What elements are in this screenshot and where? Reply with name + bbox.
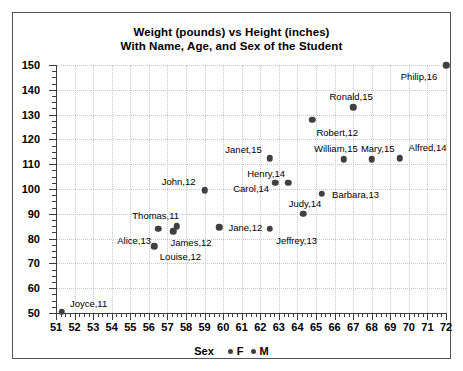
data-point[interactable] xyxy=(368,156,375,163)
x-tick-major xyxy=(427,313,428,320)
data-point[interactable] xyxy=(266,155,273,162)
data-point[interactable] xyxy=(266,225,273,232)
x-tick-major xyxy=(205,313,206,320)
data-point-label: Robert,12 xyxy=(316,126,358,137)
x-tick-minor xyxy=(214,313,215,317)
y-tick-major xyxy=(49,65,56,66)
x-tick-minor xyxy=(177,313,178,317)
x-tick-major xyxy=(446,313,447,320)
x-tick-major xyxy=(167,313,168,320)
x-tick-minor xyxy=(191,313,192,317)
x-tick-minor xyxy=(200,313,201,317)
legend-entry-label: F xyxy=(237,345,244,357)
data-point-label: Jane,12 xyxy=(229,222,263,233)
x-tick-minor xyxy=(270,313,271,317)
x-tick-major xyxy=(297,313,298,320)
data-point-label: Thomas,11 xyxy=(132,210,179,221)
x-tick-minor xyxy=(293,313,294,317)
data-point[interactable] xyxy=(300,211,307,218)
x-tick-label: 62 xyxy=(254,321,266,333)
x-tick-label: 56 xyxy=(143,321,155,333)
data-point[interactable] xyxy=(216,224,223,231)
y-tick-major xyxy=(49,214,56,215)
x-tick-major xyxy=(372,313,373,320)
y-tick-label: 100 xyxy=(22,183,40,195)
x-tick-minor xyxy=(98,313,99,317)
data-point[interactable] xyxy=(443,62,450,69)
data-point[interactable] xyxy=(396,155,403,162)
x-tick-minor xyxy=(437,313,438,317)
x-tick-minor xyxy=(418,313,419,317)
x-tick-minor xyxy=(140,313,141,317)
x-tick-label: 58 xyxy=(180,321,192,333)
data-point[interactable] xyxy=(272,180,279,187)
x-tick-label: 54 xyxy=(106,321,118,333)
data-point[interactable] xyxy=(201,187,208,194)
x-tick-label: 72 xyxy=(440,321,452,333)
data-point-label: Jeffrey,13 xyxy=(276,234,317,245)
data-point[interactable] xyxy=(341,156,348,163)
chart-screenshot: Weight (pounds) vs Height (inches) With … xyxy=(0,0,463,371)
x-tick-label: 71 xyxy=(421,321,433,333)
gridline-vertical xyxy=(446,65,447,313)
y-tick-major xyxy=(49,139,56,140)
data-point-label: Louise,12 xyxy=(160,251,201,262)
x-tick-minor xyxy=(107,313,108,317)
data-point[interactable] xyxy=(170,228,177,235)
y-tick-label: 90 xyxy=(28,208,40,220)
x-tick-label: 55 xyxy=(124,321,136,333)
chart-title-line1: Weight (pounds) vs Height (inches) xyxy=(13,25,450,39)
x-tick-minor xyxy=(400,313,401,317)
x-tick-minor xyxy=(307,313,308,317)
data-point-label: Judy,14 xyxy=(289,197,322,208)
x-tick-minor xyxy=(172,313,173,317)
y-tick-label: 130 xyxy=(22,109,40,121)
x-tick-minor xyxy=(344,313,345,317)
x-tick-minor xyxy=(381,313,382,317)
data-point-label: John,12 xyxy=(162,176,196,187)
legend-entry[interactable]: M xyxy=(251,345,269,357)
legend-marker-dot-icon xyxy=(251,349,256,354)
data-point-label: James,12 xyxy=(170,237,211,248)
y-tick-label: 110 xyxy=(22,158,40,170)
x-tick-minor xyxy=(423,313,424,317)
x-tick-major xyxy=(279,313,280,320)
x-tick-minor xyxy=(302,313,303,317)
x-tick-label: 65 xyxy=(310,321,322,333)
x-tick-label: 64 xyxy=(291,321,303,333)
x-tick-major xyxy=(223,313,224,320)
chart-title-line2: With Name, Age, and Sex of the Student xyxy=(13,39,450,53)
legend-entry[interactable]: F xyxy=(228,345,244,357)
legend-title: Sex xyxy=(194,345,214,357)
x-tick-minor xyxy=(209,313,210,317)
data-point[interactable] xyxy=(151,243,158,250)
data-point[interactable] xyxy=(350,104,357,111)
x-tick-minor xyxy=(367,313,368,317)
x-tick-major xyxy=(316,313,317,320)
y-tick-label: 120 xyxy=(22,133,40,145)
x-tick-label: 70 xyxy=(403,321,415,333)
data-point[interactable] xyxy=(58,309,65,316)
y-tick-label: 80 xyxy=(28,233,40,245)
x-tick-minor xyxy=(246,313,247,317)
x-tick-minor xyxy=(386,313,387,317)
data-point[interactable] xyxy=(285,180,292,187)
x-tick-major xyxy=(112,313,113,320)
data-point[interactable] xyxy=(318,191,325,198)
x-tick-minor xyxy=(321,313,322,317)
y-tick-major xyxy=(49,189,56,190)
x-tick-major xyxy=(390,313,391,320)
data-point-label: Barbara,13 xyxy=(332,188,379,199)
x-tick-minor xyxy=(228,313,229,317)
data-point-label: Alice,13 xyxy=(117,234,151,245)
x-tick-minor xyxy=(362,313,363,317)
x-tick-minor xyxy=(432,313,433,317)
x-tick-major xyxy=(353,313,354,320)
x-tick-minor xyxy=(274,313,275,317)
data-point[interactable] xyxy=(155,225,162,232)
x-tick-minor xyxy=(89,313,90,317)
x-tick-minor xyxy=(144,313,145,317)
legend-entry-label: M xyxy=(260,345,269,357)
data-point[interactable] xyxy=(309,116,316,123)
x-tick-label: 67 xyxy=(347,321,359,333)
